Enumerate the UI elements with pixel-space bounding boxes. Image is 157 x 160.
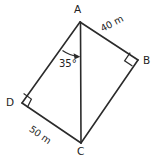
vertex-label-b: B xyxy=(143,55,150,66)
vertex-label-a: A xyxy=(74,4,81,15)
diagonal-AC xyxy=(81,22,82,143)
segment-BC xyxy=(81,60,138,143)
geometry-figure xyxy=(0,0,157,160)
angle-label-35: 35° xyxy=(59,59,77,69)
vertex-label-c: C xyxy=(77,146,84,157)
vertex-label-d: D xyxy=(6,97,14,108)
